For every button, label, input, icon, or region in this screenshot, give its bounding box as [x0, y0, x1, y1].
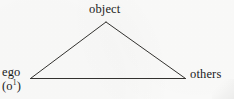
node-label-ego-sublabel: (o1) — [2, 80, 36, 93]
node-label-ego-group: ego (o1) — [2, 66, 36, 93]
triangle-diagram: object ego (o1) others — [0, 0, 234, 99]
node-label-others: others — [190, 68, 221, 81]
edge-ego-to-object — [31, 22, 107, 79]
node-label-ego: ego — [2, 66, 36, 79]
node-label-object: object — [89, 3, 120, 16]
sublabel-open-paren: (o — [2, 79, 13, 93]
edge-object-to-others — [106, 22, 186, 79]
sublabel-close-paren: ) — [17, 79, 21, 93]
